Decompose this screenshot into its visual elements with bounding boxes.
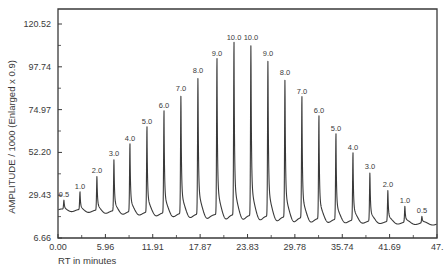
plot-frame — [58, 9, 437, 238]
peak-label: 9.0 — [263, 49, 273, 58]
y-tick-label: 74.97 — [28, 105, 51, 115]
trace-line — [58, 42, 436, 225]
chromatogram-chart: 6.6629.4352.2074.9797.74120.52 0.005.961… — [0, 0, 448, 273]
y-tick-label: 97.74 — [28, 62, 51, 72]
plot-border — [58, 9, 437, 238]
x-tick-label: 5.96 — [97, 242, 115, 252]
chromatogram-trace — [58, 42, 436, 225]
x-tick-label: 35.74 — [331, 242, 354, 252]
peak-label: 3.0 — [365, 162, 375, 171]
peak-label: 3.0 — [109, 149, 119, 158]
x-axis: 0.005.9611.9117.8723.8329.7835.7441.6947… — [49, 234, 443, 252]
peak-label: 7.0 — [176, 84, 186, 93]
peak-label: 0.5 — [417, 206, 427, 215]
x-tick-label: 0.00 — [49, 242, 67, 252]
peak-label: 4.0 — [348, 143, 358, 152]
peak-label: 1.0 — [75, 182, 85, 191]
x-tick-label: 23.83 — [236, 242, 259, 252]
x-tick-label: 11.91 — [142, 242, 164, 252]
x-axis-title: RT in minutes — [58, 255, 117, 266]
x-tick-label: 47. — [431, 242, 444, 252]
peak-label: 8.0 — [193, 66, 203, 75]
peak-label: 9.0 — [212, 49, 222, 58]
peak-label: 0.5 — [59, 190, 69, 199]
peak-label: 2.0 — [383, 180, 393, 189]
y-axis: 6.6629.4352.2074.9797.74120.52 — [23, 19, 62, 243]
peak-label: 1.0 — [400, 196, 410, 205]
peak-label: 5.0 — [142, 117, 152, 126]
y-tick-label: 52.20 — [28, 147, 51, 157]
peak-label: 8.0 — [280, 68, 290, 77]
peak-label: 7.0 — [297, 87, 307, 96]
y-tick-label: 120.52 — [23, 19, 51, 29]
y-tick-label: 29.43 — [28, 190, 51, 200]
peak-label: 6.0 — [159, 101, 169, 110]
peak-label: 2.0 — [92, 166, 102, 175]
x-tick-label: 29.78 — [284, 242, 307, 252]
peak-label: 10.0 — [227, 33, 242, 42]
x-tick-label: 17.87 — [189, 242, 212, 252]
peak-label: 10.0 — [244, 33, 259, 42]
peak-label: 4.0 — [125, 134, 135, 143]
peak-label: 6.0 — [314, 106, 324, 115]
x-tick-label: 41.69 — [378, 242, 401, 252]
y-axis-title: AMPLITUDE / 1000 (Enlarged x 0.9) — [6, 60, 17, 214]
peak-label: 5.0 — [331, 124, 341, 133]
